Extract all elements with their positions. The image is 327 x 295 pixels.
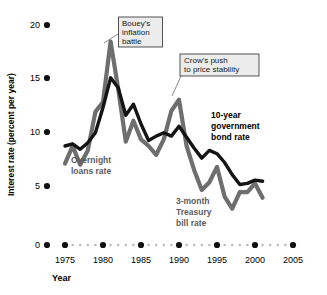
chart-background bbox=[0, 0, 327, 295]
y-tick-label-15: 15 bbox=[30, 73, 40, 83]
overnight-loans-label-line-2: loans rate bbox=[71, 166, 111, 176]
bond-rate-label-line-1: 10-year bbox=[211, 110, 241, 120]
y-tick-label-10: 10 bbox=[30, 127, 40, 137]
crow-callout-line-2: to price stability bbox=[184, 65, 239, 74]
bouey-callout-line-2: inflation bbox=[122, 28, 150, 37]
x-tick-label-2005: 2005 bbox=[283, 255, 303, 265]
overnight-loans-label-line-1: Overnight bbox=[71, 155, 111, 165]
interest-rate-line-chart: Interest rate (percent per year) 20 15 1… bbox=[0, 0, 327, 295]
tbill-label-line-2: Treasury bbox=[176, 207, 212, 217]
bouey-callout-line-1: Bouey's bbox=[122, 19, 150, 28]
bond-rate-label-line-2: government bbox=[211, 121, 260, 131]
x-tick-label-1980: 1980 bbox=[93, 255, 113, 265]
chart-container: Interest rate (percent per year) 20 15 1… bbox=[0, 0, 327, 295]
x-tick-label-2000: 2000 bbox=[245, 255, 265, 265]
tbill-label-line-3: bill rate bbox=[176, 218, 207, 228]
x-tick-label-1975: 1975 bbox=[55, 255, 75, 265]
overnight-loans-label: Overnight loans rate bbox=[71, 155, 111, 176]
bouey-callout-line-3: battle bbox=[122, 37, 142, 46]
x-tick-label-1995: 1995 bbox=[207, 255, 227, 265]
x-tick-label-1985: 1985 bbox=[131, 255, 151, 265]
tbill-label-line-1: 3-month bbox=[176, 196, 210, 206]
crow-callout-line-1: Crow's push bbox=[184, 56, 228, 65]
y-axis-title: Interest rate (percent per year) bbox=[6, 73, 16, 196]
x-axis-title: Year bbox=[52, 273, 72, 283]
y-tick-label-5: 5 bbox=[35, 181, 40, 191]
y-tick-label-0: 0 bbox=[35, 240, 40, 250]
x-tick-label-1990: 1990 bbox=[169, 255, 189, 265]
y-tick-label-20: 20 bbox=[30, 20, 40, 30]
bond-rate-label-line-3: bond rate bbox=[211, 132, 250, 142]
